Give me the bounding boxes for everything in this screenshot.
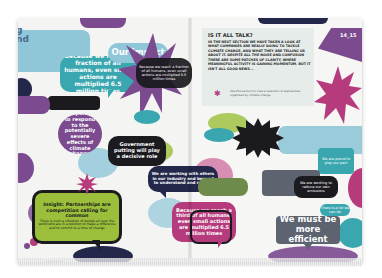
bubble-tail xyxy=(108,90,114,98)
spine-gutter xyxy=(188,18,192,262)
starburst-dark xyxy=(232,118,284,158)
info-title: IS IT ALL TALK? xyxy=(208,32,253,38)
right-dark-bubble: We are working to reduce our own emissio… xyxy=(294,176,338,198)
outlined-overlay xyxy=(190,210,232,244)
starburst-right xyxy=(314,66,362,124)
starburst-small xyxy=(76,173,98,195)
bug-icon: ✱ xyxy=(214,89,221,98)
partnerships-bubble: Insight: Partnerships are competition ca… xyxy=(32,190,122,244)
mid-olive-bubble xyxy=(198,178,248,196)
preparing-bubble: preparing to respond to the potentially … xyxy=(58,114,102,154)
bubble-tail xyxy=(92,240,100,250)
mid-teal-bubble xyxy=(204,128,234,142)
info-body: In the next section we have taken a look… xyxy=(208,40,312,71)
purple-side-bubble xyxy=(18,96,50,114)
dark-overlap-bubble: Because we reach a fraction of all human… xyxy=(136,58,192,88)
info-note: Use this section to view a selection of … xyxy=(230,90,306,97)
efficient-bubble: We must be more efficient xyxy=(276,216,340,244)
bubble-tail xyxy=(218,240,224,248)
bubble-tail xyxy=(304,244,312,250)
small-teal-bubble xyxy=(134,110,160,124)
magazine-spread: g nd Because we reach a fraction of all … xyxy=(18,18,362,262)
circle-decoration xyxy=(24,243,30,249)
right-teal-bubble: We are proud to play our part xyxy=(318,148,354,174)
dark-rect-bubble xyxy=(48,96,100,110)
top-small-bubble xyxy=(80,18,126,28)
page-number: 14_15 xyxy=(340,32,356,38)
bubble-tail xyxy=(158,190,166,198)
heading-fragment: g nd xyxy=(18,26,29,43)
right-small-bubble: There is a lot we can do xyxy=(320,204,350,216)
circle-decoration xyxy=(338,218,362,248)
top-dark-bar xyxy=(258,18,328,24)
government-bubble: Government putting will play a decisive … xyxy=(108,136,166,166)
page-edges xyxy=(18,258,362,266)
